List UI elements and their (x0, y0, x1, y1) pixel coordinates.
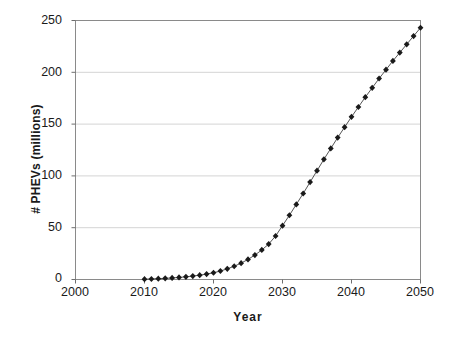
plot-frame (76, 21, 421, 280)
data-point (307, 179, 313, 185)
data-point (211, 270, 217, 276)
data-point (231, 263, 237, 269)
data-point (162, 275, 168, 281)
axis-frame (76, 21, 421, 280)
data-point (190, 273, 196, 279)
data-point (238, 260, 244, 266)
data-point (218, 268, 224, 274)
gridlines (76, 21, 421, 228)
plot-area (0, 0, 456, 346)
data-point (149, 276, 155, 282)
axis-tickmarks (72, 21, 421, 284)
data-point (142, 276, 148, 282)
data-point (197, 272, 203, 278)
series-markers (142, 25, 424, 283)
data-point (328, 145, 334, 151)
data-point (224, 266, 230, 272)
data-point (169, 275, 175, 281)
data-point (300, 190, 306, 196)
data-point (321, 156, 327, 162)
data-point (155, 276, 161, 282)
data-point (245, 256, 251, 262)
data-point (252, 252, 258, 258)
data-point (293, 201, 299, 207)
data-point (204, 271, 210, 277)
data-point (183, 274, 189, 280)
data-point (314, 168, 320, 174)
series-line (145, 28, 421, 279)
chart-figure: # PHEVs (millions) 250 200 150 100 50 0 … (0, 0, 456, 346)
